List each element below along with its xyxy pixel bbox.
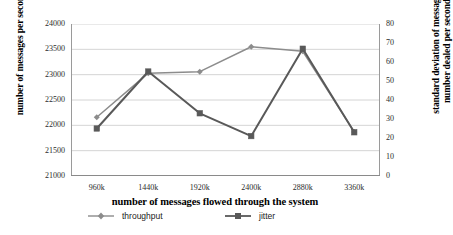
series-layer <box>94 44 358 139</box>
legend-key-throughput-diamond-icon <box>88 211 114 221</box>
y-axis-left-tick-label: 22500 <box>25 95 65 104</box>
y-axis-left-tick-label: 23500 <box>25 44 65 53</box>
y-axis-left-title: number of messages per second <box>15 0 25 133</box>
y-axis-right-title: standard deviation of messages' number d… <box>431 0 453 141</box>
y-axis-right-title-line2: number dealed per second <box>442 0 452 103</box>
y-axis-left-tick-label: 21000 <box>25 171 65 180</box>
y-axis-right-tick-label: 70 <box>386 38 416 47</box>
y-axis-right-tick-label: 40 <box>386 95 416 104</box>
plot-svg <box>71 24 380 176</box>
y-axis-left-tick-label: 23000 <box>25 70 65 79</box>
x-axis-tick-label: 2880k <box>280 183 326 192</box>
plot-area <box>71 24 380 176</box>
x-axis-tick-label: 1920k <box>177 183 223 192</box>
legend-label-throughput: throughput <box>118 211 163 221</box>
y-axis-left-tick-label: 24000 <box>25 19 65 28</box>
y-axis-left-tick-label: 22000 <box>25 120 65 129</box>
x-axis-tick-label: 3360k <box>331 183 377 192</box>
y-axis-right-tick-label: 30 <box>386 114 416 123</box>
legend-label-jitter: jitter <box>255 211 275 221</box>
y-axis-right-tick-label: 50 <box>386 76 416 85</box>
legend-item-jitter[interactable]: jitter <box>225 211 275 221</box>
y-axis-right-tick-label: 0 <box>386 171 416 180</box>
y-axis-right-tick-label: 80 <box>386 19 416 28</box>
legend-key-jitter-square-icon <box>225 211 251 221</box>
x-axis-tick-label: 1440k <box>125 183 171 192</box>
y-axis-right-tick-label: 60 <box>386 57 416 66</box>
y-axis-right-tick-label: 10 <box>386 152 416 161</box>
legend-item-throughput[interactable]: throughput <box>88 211 163 221</box>
y-axis-right-title-line1: standard deviation of messages' <box>431 0 441 114</box>
y-axis-left-tick-label: 21500 <box>25 146 65 155</box>
legend: throughput jitter <box>60 211 390 227</box>
x-axis-title: number of messages flowed through the sy… <box>40 196 390 207</box>
y-axis-right-tick-label: 20 <box>386 133 416 142</box>
x-axis-tick-label: 960k <box>74 183 120 192</box>
x-axis-tick-label: 2400k <box>228 183 274 192</box>
